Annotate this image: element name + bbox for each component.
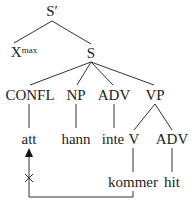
node-vp: VP [145, 88, 164, 103]
word-kommer: kommer [108, 175, 158, 190]
node-s: S [87, 46, 95, 61]
node-xmax-superscript: max [22, 45, 38, 55]
node-adv: ADV [98, 88, 131, 103]
node-confl: CONFL [5, 88, 54, 103]
word-hit: hit [164, 175, 180, 190]
node-adv-2: ADV [156, 132, 189, 147]
node-xmax: Xmax [11, 45, 37, 60]
node-v: V [129, 132, 140, 147]
node-s-bar: S′ [46, 4, 58, 19]
node-np: NP [66, 88, 85, 103]
word-att: att [22, 132, 37, 147]
arrowhead-icon [25, 148, 33, 157]
node-xmax-label: X [11, 44, 22, 60]
word-inte: inte [102, 132, 125, 147]
word-hann: hann [61, 132, 90, 147]
